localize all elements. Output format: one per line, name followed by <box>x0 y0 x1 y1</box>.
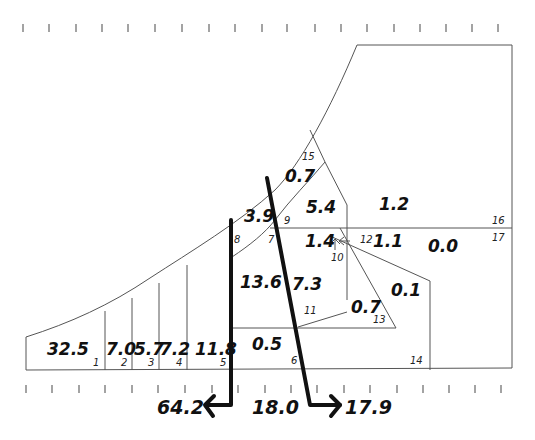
index-region-8: 8 <box>234 234 240 245</box>
value-region-11: 7.3 <box>292 274 322 294</box>
value-region-1: 32.5 <box>47 339 89 359</box>
total-middle: 18.0 <box>252 396 299 418</box>
index-region-12: 12 <box>360 234 373 245</box>
value-region-7: 13.6 <box>240 272 282 292</box>
division-line-left <box>205 220 231 416</box>
index-region-1: 1 <box>93 357 99 368</box>
index-region-3: 3 <box>148 357 154 368</box>
top-ruler-ticks <box>23 24 498 32</box>
index-region-11: 11 <box>304 305 317 316</box>
value-region-6: 0.5 <box>252 334 282 354</box>
region-labels: 32.5 1 7.0 2 5.7 3 7.2 4 11.8 5 0.5 6 13… <box>47 151 505 368</box>
index-region-15: 15 <box>302 151 315 162</box>
value-region-16: 1.2 <box>379 194 409 214</box>
total-right: 17.9 <box>345 396 392 418</box>
value-region-2: 7.0 <box>106 339 136 359</box>
value-region-5: 11.8 <box>195 339 237 359</box>
value-region-8: 3.9 <box>244 206 274 226</box>
index-region-17: 17 <box>492 232 505 243</box>
index-region-6: 6 <box>291 355 297 366</box>
value-region-17: 0.0 <box>428 236 458 256</box>
index-region-7: 7 <box>268 234 275 245</box>
index-region-10: 10 <box>331 252 344 263</box>
value-region-15: 0.7 <box>285 166 315 186</box>
index-region-9: 9 <box>284 215 290 226</box>
index-region-16: 16 <box>492 215 505 226</box>
value-region-12: 1.1 <box>373 231 403 251</box>
value-region-14: 0.1 <box>391 280 421 300</box>
index-region-14: 14 <box>410 355 423 366</box>
index-region-2: 2 <box>121 357 127 368</box>
totals: 64.2 18.0 17.9 <box>157 396 392 418</box>
value-region-4: 7.2 <box>160 339 190 359</box>
value-region-10: 1.4 <box>305 231 335 251</box>
index-region-4: 4 <box>176 357 182 368</box>
index-region-13: 13 <box>373 314 386 325</box>
value-region-9: 5.4 <box>306 197 336 217</box>
total-left: 64.2 <box>157 396 204 418</box>
index-region-5: 5 <box>220 357 226 368</box>
bottom-ruler-ticks <box>26 385 501 393</box>
area-partition-diagram: 32.5 1 7.0 2 5.7 3 7.2 4 11.8 5 0.5 6 13… <box>0 0 535 440</box>
